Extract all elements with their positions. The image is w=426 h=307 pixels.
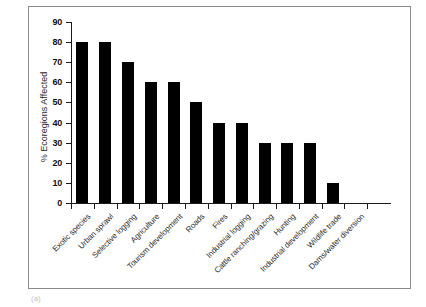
x-tick-0 <box>71 204 72 209</box>
bar <box>99 42 111 203</box>
bar <box>76 42 88 203</box>
x-tick-11 <box>322 204 323 209</box>
x-tick-4 <box>162 204 163 209</box>
bar <box>213 123 225 203</box>
bar-chart-plot-area: 0102030405060708090 Exotic speciesUrban … <box>0 0 426 307</box>
x-tick-10 <box>299 204 300 209</box>
x-tick-9 <box>276 204 277 209</box>
y-axis-line <box>71 22 72 204</box>
x-tick-7 <box>231 204 232 209</box>
bar <box>281 143 293 203</box>
x-tick-1 <box>94 204 95 209</box>
figure-root: 0102030405060708090 Exotic speciesUrban … <box>0 0 426 307</box>
bar <box>327 183 339 203</box>
x-tick-8 <box>253 204 254 209</box>
y-tick-50 <box>66 102 71 103</box>
bar <box>145 82 157 203</box>
y-tick-20 <box>66 163 71 164</box>
x-tick-5 <box>185 204 186 209</box>
bar <box>259 143 271 203</box>
bar <box>168 82 180 203</box>
y-tick-80 <box>66 42 71 43</box>
y-tick-10 <box>66 183 71 184</box>
y-tick-90 <box>66 22 71 23</box>
y-tick-30 <box>66 143 71 144</box>
x-tick-6 <box>208 204 209 209</box>
y-tick-40 <box>66 123 71 124</box>
x-axis-label: Fires <box>211 212 230 231</box>
bar <box>236 123 248 203</box>
bar <box>190 102 202 203</box>
x-tick-3 <box>139 204 140 209</box>
y-axis-title: % Ecoregions Affected <box>39 27 49 207</box>
y-tick-60 <box>66 82 71 83</box>
bar <box>304 143 316 203</box>
y-tick-70 <box>66 62 71 63</box>
x-tick-12 <box>344 204 345 209</box>
x-tick-2 <box>117 204 118 209</box>
x-axis-label: Roads <box>184 212 206 234</box>
x-tick-13 <box>367 204 368 209</box>
y-tick-label-90: 90 <box>22 18 62 27</box>
figure-caption: (a) <box>31 294 41 303</box>
bar <box>122 62 134 203</box>
